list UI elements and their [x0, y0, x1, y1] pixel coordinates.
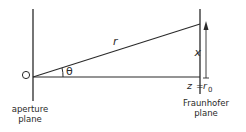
aperture-label-line1: aperture: [12, 104, 49, 114]
fraunhofer-label-line1: Fraunhofer: [183, 98, 230, 108]
aperture-label-line2: plane: [18, 114, 42, 124]
fraunhofer-label-line2: plane: [194, 108, 218, 118]
fraunhofer-diagram: θ r x z = r 0 aperture plane Fraunhofer …: [0, 0, 246, 132]
z-label: z: [186, 80, 193, 91]
x-arrow-head-icon: [204, 21, 209, 30]
r0-subscript: 0: [208, 86, 212, 94]
x-label: x: [193, 46, 201, 59]
origin-circle: [22, 71, 29, 78]
theta-label: θ: [66, 65, 73, 78]
r-label: r: [113, 35, 119, 48]
r-ray-line: [33, 24, 200, 77]
theta-arc: [62, 68, 63, 77]
